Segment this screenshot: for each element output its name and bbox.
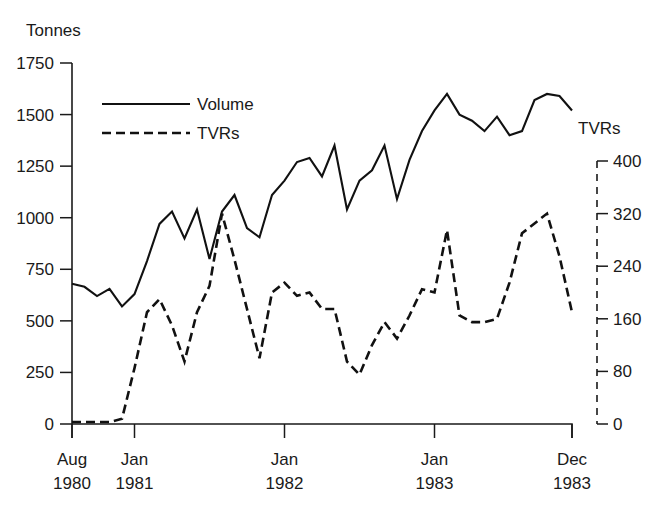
y-axis-title: Tonnes — [26, 21, 81, 40]
y-tick-label: 1750 — [16, 54, 54, 73]
y-tick-label: 1000 — [16, 209, 54, 228]
y-axis: 02505007501000125015001750 — [16, 54, 72, 434]
x-tick-label-month: Aug — [57, 450, 87, 469]
y2-tick-label: 400 — [613, 152, 641, 171]
legend-label-volume: Volume — [197, 95, 254, 114]
x-tick-label-month: Jan — [121, 450, 148, 469]
x-axis: Aug1980Jan1981Jan1982Jan1983Dec1983 — [53, 424, 591, 493]
y2-tick-label: 80 — [613, 362, 632, 381]
x-tick-label-month: Jan — [271, 450, 298, 469]
x-axis-line — [72, 424, 572, 438]
y-tick-label: 0 — [45, 415, 54, 434]
y2-axis-title: TVRs — [578, 119, 621, 138]
series-line-tvrs — [72, 214, 572, 422]
chart-container: Tonnes TVRs 02505007501000125015001750 A… — [0, 0, 649, 506]
line-chart-figure: Tonnes TVRs 02505007501000125015001750 A… — [0, 0, 649, 506]
y2-tick-label: 240 — [613, 257, 641, 276]
x-axis-ticks — [72, 424, 572, 438]
x-tick-label-year: 1983 — [553, 474, 591, 493]
x-tick-label-month: Dec — [557, 450, 588, 469]
legend-label-tvrs: TVRs — [197, 124, 240, 143]
y2-tick-label: 320 — [613, 205, 641, 224]
x-tick-label-month: Jan — [421, 450, 448, 469]
y-axis-ticks: 02505007501000125015001750 — [16, 54, 72, 434]
y2-tick-label: 160 — [613, 310, 641, 329]
y-tick-label: 1500 — [16, 106, 54, 125]
y-tick-label: 250 — [26, 363, 54, 382]
x-tick-label-year: 1982 — [266, 474, 304, 493]
y-tick-label: 1250 — [16, 157, 54, 176]
x-tick-label-year: 1980 — [53, 474, 91, 493]
plot-area — [72, 94, 572, 422]
y2-axis-ticks: 080160240320400 — [597, 152, 641, 434]
y2-tick-label: 0 — [613, 415, 622, 434]
x-tick-label-year: 1983 — [416, 474, 454, 493]
x-tick-label-year: 1981 — [116, 474, 154, 493]
series-line-volume — [72, 94, 572, 306]
y2-axis: 080160240320400 — [597, 152, 641, 434]
x-axis-labels: Aug1980Jan1981Jan1982Jan1983Dec1983 — [53, 450, 591, 493]
legend: Volume TVRs — [102, 95, 254, 143]
y-tick-label: 500 — [26, 312, 54, 331]
y-tick-label: 750 — [26, 260, 54, 279]
